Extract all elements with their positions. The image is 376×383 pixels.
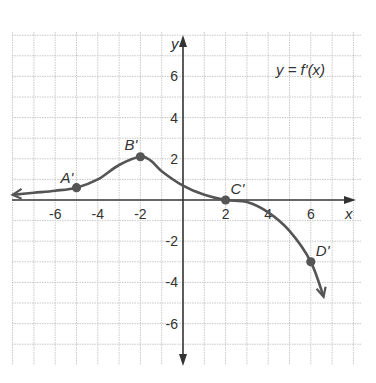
y-tick-label: 4 xyxy=(170,110,178,126)
y-tick-label: -2 xyxy=(166,233,179,249)
y-axis-arrow-up-icon xyxy=(179,35,187,47)
chart-title: y = f'(x) xyxy=(275,61,325,78)
y-axis-arrow-down-icon xyxy=(179,354,187,366)
y-axis-label: y xyxy=(170,35,180,52)
point-d-prime xyxy=(306,257,315,266)
x-tick-label: -4 xyxy=(92,206,105,222)
x-axis-label: x xyxy=(344,205,353,222)
y-tick-label: -4 xyxy=(166,274,179,290)
point-b-prime xyxy=(136,152,145,161)
point-c-prime xyxy=(221,195,230,204)
point-label: C' xyxy=(231,180,246,197)
grid xyxy=(12,32,362,365)
x-tick-label: 6 xyxy=(307,206,315,222)
x-tick-label: 2 xyxy=(222,206,230,222)
point-label: A' xyxy=(60,169,75,186)
x-axis-arrow-icon xyxy=(344,196,356,204)
point-label: B' xyxy=(124,136,138,153)
point-label: D' xyxy=(316,242,331,259)
y-tick-label: -6 xyxy=(166,316,179,332)
chart: -6-4-2246642-2-4-6 A'B'C'D' y = f'(x) x … xyxy=(0,0,376,383)
axes xyxy=(12,35,356,366)
x-tick-label: -6 xyxy=(49,206,62,222)
x-tick-label: -2 xyxy=(134,206,147,222)
y-tick-label: 6 xyxy=(170,68,178,84)
y-tick-label: 2 xyxy=(170,151,178,167)
